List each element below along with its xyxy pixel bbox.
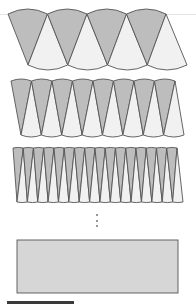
row-8-sectors xyxy=(8,9,187,70)
ellipsis-dot xyxy=(96,214,98,216)
limit-rectangle xyxy=(17,240,178,293)
row-16-sectors xyxy=(11,79,184,137)
row-32-sectors xyxy=(13,147,183,202)
ellipsis-dot xyxy=(96,225,98,227)
sector-rearrangement-diagram xyxy=(0,0,196,304)
ellipsis-dot xyxy=(96,220,98,222)
ellipsis-dots xyxy=(96,214,98,227)
